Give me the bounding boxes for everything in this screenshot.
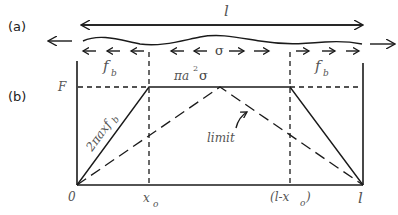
right-friction-label: f b — [314, 57, 329, 78]
x0-tick-label: x o — [143, 191, 159, 209]
svg-text:b: b — [111, 68, 117, 78]
middle-force-label: πa 2 σ — [173, 64, 208, 83]
svg-text:πa: πa — [173, 69, 189, 83]
limit-label: limit — [207, 131, 235, 145]
svg-text:b: b — [110, 114, 122, 125]
svg-text:(l-x: (l-x — [270, 190, 290, 204]
svg-text:σ: σ — [199, 68, 208, 83]
limit-pointer-arrow — [236, 112, 247, 128]
svg-text:o: o — [153, 199, 159, 209]
l-tick-label: l — [358, 189, 363, 207]
svg-text:f: f — [314, 57, 323, 75]
length-label: l — [224, 2, 229, 20]
panel-b-label: (b) — [8, 89, 26, 104]
fiber-pullout-diagram: (a) l σ (b) F f b — [0, 0, 398, 215]
l-minus-x0-tick-label: (l-x o ) — [270, 190, 311, 208]
origin-label: 0 — [68, 190, 76, 204]
svg-text:x: x — [143, 191, 150, 205]
svg-text:b: b — [323, 68, 329, 78]
svg-text:2: 2 — [193, 64, 198, 73]
svg-text:): ) — [305, 190, 311, 204]
stress-label: σ — [215, 43, 224, 58]
f-axis-label: F — [57, 80, 67, 94]
panel-a-label: (a) — [8, 19, 26, 34]
svg-text:f: f — [102, 57, 111, 75]
svg-text:2πaxf: 2πaxf — [83, 116, 116, 155]
left-friction-label: f b — [102, 57, 117, 78]
